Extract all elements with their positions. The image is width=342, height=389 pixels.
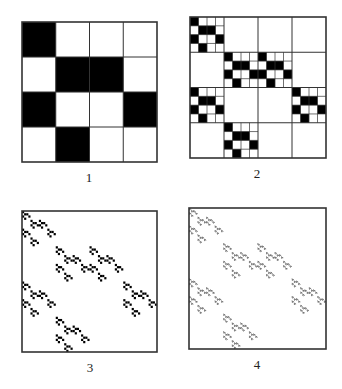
- filled-cell: [223, 331, 224, 332]
- filled-cell: [209, 220, 210, 221]
- filled-cell: [225, 339, 226, 340]
- filled-cell: [232, 274, 233, 275]
- filled-cell: [62, 251, 64, 253]
- filled-cell: [232, 345, 233, 346]
- filled-cell: [266, 256, 267, 257]
- filled-cell: [222, 301, 223, 302]
- filled-cell: [225, 249, 226, 250]
- filled-cell: [214, 292, 215, 293]
- filled-cell: [208, 293, 209, 294]
- filled-cell: [225, 245, 226, 246]
- filled-cell: [151, 306, 153, 308]
- filled-cell: [199, 305, 200, 306]
- filled-cell: [279, 254, 280, 255]
- filled-cell: [300, 293, 301, 294]
- filled-cell: [308, 310, 309, 311]
- filled-cell: [190, 297, 191, 298]
- filled-cell: [241, 257, 242, 258]
- filled-cell: [217, 303, 218, 304]
- filled-cell: [297, 299, 298, 300]
- filled-cell: [220, 228, 221, 229]
- filled-cell: [234, 331, 235, 332]
- filled-cell: [309, 288, 310, 289]
- filled-cell: [235, 277, 236, 278]
- filled-cell: [207, 217, 208, 218]
- filled-cell: [201, 224, 202, 225]
- filled-cell: [215, 232, 216, 233]
- filled-cell: [306, 308, 307, 309]
- filled-cell: [304, 308, 305, 309]
- filled-cell: [249, 336, 250, 337]
- filled-cell: [299, 283, 300, 284]
- filled-cell: [217, 304, 218, 305]
- filled-cell: [202, 219, 203, 220]
- filled-cell: [269, 272, 270, 273]
- filled-cell: [241, 132, 250, 141]
- filled-cell: [302, 294, 303, 295]
- filled-cell: [292, 296, 293, 297]
- filled-cell: [206, 217, 207, 218]
- filled-cell: [199, 26, 208, 35]
- filled-cell: [212, 220, 213, 221]
- filled-cell: [203, 308, 204, 309]
- filled-cell: [267, 270, 268, 271]
- filled-cell: [226, 250, 227, 251]
- filled-cell: [213, 293, 214, 294]
- filled-cell: [192, 229, 193, 230]
- filled-cell: [223, 266, 224, 267]
- filled-cell: [56, 264, 58, 266]
- filled-cell: [193, 210, 194, 211]
- filled-cell: [228, 246, 229, 247]
- filled-cell: [226, 252, 227, 253]
- filled-cell: [215, 302, 216, 303]
- filled-cell: [71, 259, 73, 261]
- panel-iteration-4: [189, 208, 326, 349]
- filled-cell: [220, 299, 221, 300]
- filled-cell: [33, 315, 35, 317]
- filled-cell: [238, 255, 239, 256]
- filled-cell: [209, 225, 210, 226]
- filled-cell: [301, 293, 302, 294]
- filled-cell: [230, 248, 231, 249]
- fractal-grid-2: [190, 17, 326, 158]
- filled-cell: [217, 299, 218, 300]
- filled-cell: [305, 308, 306, 309]
- filled-cell: [276, 257, 277, 258]
- filled-cell: [303, 308, 304, 309]
- filled-cell: [66, 279, 68, 281]
- filled-cell: [258, 249, 259, 250]
- filled-cell: [203, 308, 204, 309]
- filled-cell: [198, 288, 199, 289]
- filled-cell: [192, 282, 193, 283]
- filled-cell: [275, 253, 276, 254]
- filled-cell: [312, 294, 313, 295]
- filled-cell: [228, 334, 229, 335]
- filled-cell: [234, 254, 235, 255]
- filled-cell: [191, 298, 192, 299]
- filled-cell: [195, 214, 196, 215]
- filled-cell: [220, 299, 221, 300]
- filled-cell: [287, 269, 288, 270]
- filled-cell: [24, 231, 26, 233]
- filled-cell: [224, 244, 225, 245]
- filled-cell: [315, 291, 316, 292]
- filled-cell: [318, 298, 319, 299]
- filled-cell: [206, 222, 207, 223]
- filled-cell: [248, 328, 249, 329]
- filled-cell: [37, 224, 39, 226]
- filled-cell: [239, 275, 240, 276]
- filled-cell: [200, 290, 201, 291]
- filled-cell: [238, 346, 239, 347]
- filled-cell: [30, 224, 32, 226]
- filled-cell: [24, 301, 26, 303]
- filled-cell: [295, 299, 296, 300]
- filled-cell: [268, 254, 269, 255]
- filled-cell: [216, 35, 225, 44]
- filled-cell: [292, 279, 293, 280]
- filled-cell: [270, 277, 271, 278]
- filled-cell: [324, 302, 325, 303]
- filled-cell: [225, 334, 226, 335]
- filled-cell: [238, 274, 239, 275]
- filled-cell: [301, 288, 302, 289]
- filled-cell: [226, 317, 227, 318]
